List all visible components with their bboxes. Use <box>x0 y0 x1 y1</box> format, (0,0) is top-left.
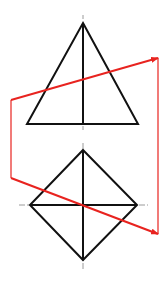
upper-section-arrow <box>11 58 158 100</box>
front-view-triangle <box>27 15 138 130</box>
drawing-svg <box>0 0 168 283</box>
projection-drawing <box>0 0 168 283</box>
